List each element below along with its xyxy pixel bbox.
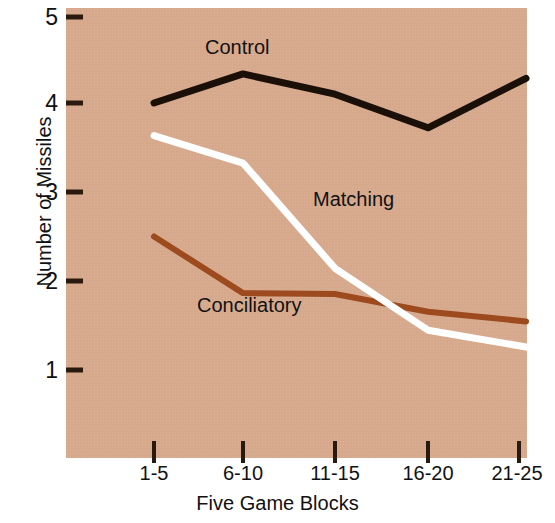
series-line-conciliatory — [154, 237, 526, 322]
chart-canvas — [0, 0, 555, 523]
series-line-control — [154, 74, 526, 128]
chart-figure: Number of Missiles 5 4 3 2 1 1-5 6-10 11… — [0, 0, 555, 523]
x-axis-ticks — [154, 441, 519, 463]
y-axis-ticks — [66, 17, 83, 370]
